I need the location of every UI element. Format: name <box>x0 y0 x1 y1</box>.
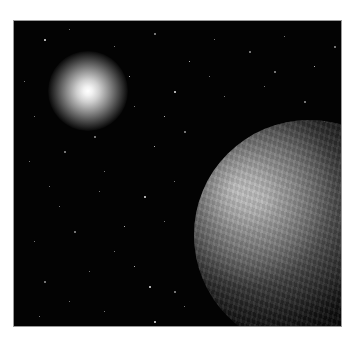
star-dot <box>44 39 46 41</box>
star-dot <box>114 251 115 252</box>
star-dot <box>64 151 66 153</box>
star-dot <box>144 196 146 198</box>
star-dot <box>174 181 175 182</box>
star-dot <box>124 226 125 227</box>
star-dot <box>189 61 190 62</box>
star-dot <box>134 106 135 107</box>
star-dot <box>164 221 165 222</box>
star-dot <box>24 81 25 82</box>
star-dot <box>104 171 105 172</box>
star-dot <box>154 33 156 35</box>
star-dot <box>99 191 100 192</box>
star-dot <box>334 46 336 48</box>
star-dot <box>94 136 96 138</box>
star-dot <box>154 321 156 323</box>
star-dot <box>114 46 115 47</box>
planet-surface-texture <box>194 120 342 327</box>
star-dot <box>74 231 76 233</box>
star-dot <box>209 76 210 77</box>
star-dot <box>264 86 265 87</box>
star-dot <box>224 96 225 97</box>
star-dot <box>129 76 130 77</box>
star-dot <box>174 291 176 293</box>
star-dot <box>69 301 70 302</box>
star-dot <box>154 146 155 147</box>
star-dot <box>274 71 276 73</box>
star-dot <box>214 39 215 40</box>
star-dot <box>34 116 35 117</box>
star-dot <box>34 241 35 242</box>
star-dot <box>149 286 151 288</box>
star-dot <box>104 311 105 312</box>
bright-star <box>48 51 128 131</box>
star-dot <box>304 101 306 103</box>
star-dot <box>29 161 30 162</box>
star-dot <box>59 206 60 207</box>
star-dot <box>174 91 176 93</box>
star-dot <box>314 66 315 67</box>
star-dot <box>49 186 50 187</box>
star-dot <box>44 281 46 283</box>
star-dot <box>39 316 40 317</box>
star-dot <box>184 306 185 307</box>
star-dot <box>249 51 251 53</box>
star-dot <box>134 266 135 267</box>
star-dot <box>164 116 165 117</box>
star-dot <box>69 29 70 30</box>
star-dot <box>284 36 285 37</box>
star-dot <box>89 271 90 272</box>
star-dot <box>184 131 186 133</box>
space-image <box>13 20 342 327</box>
planet <box>194 120 342 327</box>
